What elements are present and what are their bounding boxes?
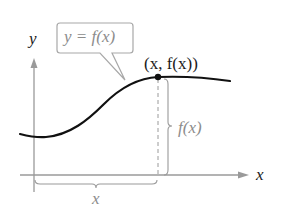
point-label: (x, f(x)) (144, 55, 198, 72)
y-axis (31, 58, 38, 192)
function-graph-diagram (0, 0, 285, 221)
horizontal-brace (35, 180, 157, 188)
point-marker (155, 74, 161, 80)
y-axis-label: y (29, 30, 37, 47)
x-axis (20, 172, 249, 179)
vertical-brace-label: f(x) (178, 119, 202, 136)
callout-label: y = f(x) (64, 28, 115, 45)
x-axis-label: x (256, 166, 264, 183)
vertical-brace (164, 79, 172, 175)
horizontal-brace-label: x (92, 190, 100, 207)
